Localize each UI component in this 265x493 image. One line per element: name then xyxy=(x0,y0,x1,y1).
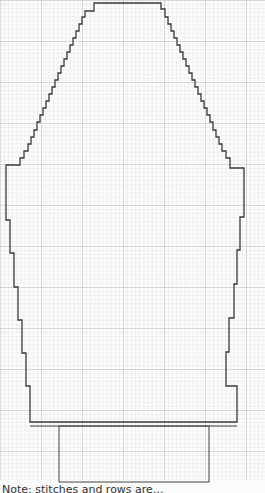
grid xyxy=(0,0,265,480)
grid-and-outline xyxy=(0,0,265,493)
chart-caption: Note: stitches and rows are... xyxy=(2,484,163,493)
chart-paper: Note: stitches and rows are... xyxy=(0,0,265,493)
